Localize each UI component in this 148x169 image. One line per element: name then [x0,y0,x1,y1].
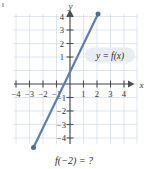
x-tick-label: −3 [25,89,34,99]
y-tick-label: 4 [60,12,65,22]
function-label: y = f(x) [95,51,124,62]
scan-artifact-mark [2,3,4,7]
x-tick-label: −2 [38,89,47,99]
y-tick-label: −3 [57,120,66,130]
y-tick-label: −2 [57,106,66,116]
x-tick-label: 4 [122,89,127,99]
figure-caption: f(−2) = ? [55,155,93,167]
line-endpoint-lower [31,145,36,150]
y-tick-label: −4 [57,133,67,143]
x-tick-label: 1 [81,89,85,99]
x-tick-label: −4 [11,89,21,99]
y-tick-label: 2 [60,39,64,49]
y-tick-label: 1 [60,52,64,62]
x-tick-label: 2 [95,89,99,99]
function-label-group: y = f(x) [85,48,135,63]
line-endpoint-upper [96,12,101,17]
coordinate-plane-svg: −4 −3 −2 −1 1 2 3 4 4 3 2 1 −1 −2 −3 −4 … [0,0,148,169]
x-tick-label: 3 [108,89,112,99]
y-tick-label: 3 [60,25,64,35]
figure-container: −4 −3 −2 −1 1 2 3 4 4 3 2 1 −1 −2 −3 −4 … [0,0,148,169]
